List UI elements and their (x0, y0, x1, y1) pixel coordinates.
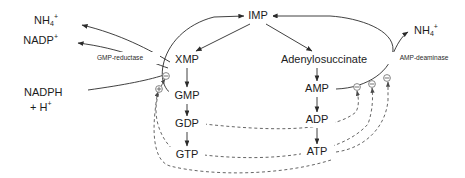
ammonium-right-subscript: 4 (430, 30, 434, 37)
amp-feedback-two-symbol (369, 81, 376, 88)
imp-branch-edges (196, 24, 312, 51)
edge-nadph-to-gmp-reductase (88, 74, 167, 90)
edge-imp-to-adenylosuccinate (266, 24, 312, 51)
node-adenylosuccinate: Adenylosuccinate (281, 53, 367, 65)
node-xmp: XMP (175, 53, 199, 65)
node-adp: ADP (306, 113, 329, 125)
node-imp: IMP (248, 9, 268, 21)
enzyme-amp-deaminase: AMP-deaminase (400, 54, 449, 61)
cofactor-nadph-proton: + H+ (30, 100, 52, 113)
purine-pathway-diagram: IMP XMP GMP GDP GTP Adenylosuccinate AMP… (0, 0, 465, 178)
node-gmp: GMP (174, 89, 199, 101)
gmp-reductase-activation-symbol (156, 86, 163, 93)
nadp-base: NADP (23, 34, 54, 46)
pathway-svg-canvas: IMP XMP GMP GDP GTP Adenylosuccinate AMP… (0, 0, 465, 178)
amp-feedback-one-symbol (354, 84, 361, 91)
nadp-superscript: + (54, 33, 58, 40)
edge-imp-to-xmp (196, 24, 250, 51)
ammonium-left-superscript: + (54, 13, 58, 20)
edge-gtp-activates-amp-branch (204, 88, 373, 158)
cofactor-ammonium-right: NH4+ (414, 23, 438, 37)
ammonium-right-superscript: + (434, 23, 438, 30)
ammonium-left-subscript: 4 (50, 20, 54, 27)
node-gtp: GTP (176, 148, 199, 160)
proton-superscript: + (47, 100, 51, 107)
proton-base: + H (30, 101, 47, 113)
node-atp: ATP (307, 145, 328, 157)
xmp-inhibition-symbol (163, 73, 170, 80)
edge-gdp-feedback-to-amp-branch (204, 91, 358, 129)
ammonium-left-base: NH (34, 14, 50, 26)
node-gdp: GDP (175, 117, 199, 129)
ammonium-right-base: NH (414, 24, 430, 36)
cofactor-nadp-plus: NADP+ (23, 33, 58, 46)
cofactor-nadph: NADPH (24, 86, 63, 98)
enzyme-gmp-reductase: GMP-reductase (97, 54, 144, 61)
amp-feedback-three-symbol (384, 75, 391, 82)
cofactor-ammonium-left: NH4+ (34, 13, 58, 27)
node-label-group: IMP XMP GMP GDP GTP Adenylosuccinate AMP… (169, 9, 376, 162)
node-amp: AMP (305, 82, 329, 94)
